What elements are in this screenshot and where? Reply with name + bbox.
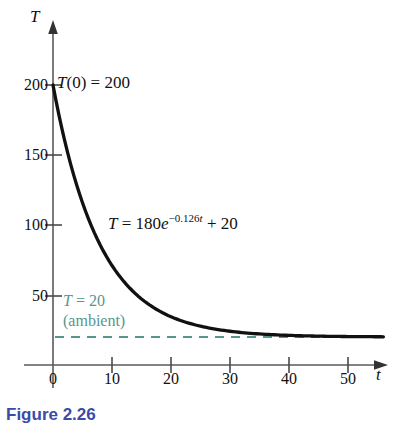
equation-exponent: −0.126t: [169, 212, 203, 224]
equation-tail: + 20: [203, 214, 238, 233]
ambient-value-label: T = 20: [63, 293, 105, 309]
x-tick-label-0: 0: [33, 371, 73, 387]
x-tick-label-30: 30: [210, 371, 250, 387]
equation-exponent-number: −0.126: [169, 212, 200, 224]
ambient-variable: T: [63, 292, 72, 309]
x-axis-label: t: [376, 366, 381, 383]
y-tick-label-50: 50: [2, 288, 48, 304]
y-axis-label: T: [30, 8, 39, 25]
equation-base: e: [161, 214, 169, 233]
x-tick-label-20: 20: [151, 371, 191, 387]
ambient-value: = 20: [72, 292, 105, 309]
equation-annotation: T = 180e−0.126t + 20: [108, 215, 238, 232]
initial-value-rest: (0) = 200: [66, 73, 129, 92]
equation-mid: = 180: [117, 214, 161, 233]
y-tick-label-150: 150: [2, 147, 48, 163]
x-tick-label-40: 40: [269, 371, 309, 387]
figure-caption: Figure 2.26: [6, 406, 96, 423]
x-tick-label-10: 10: [92, 371, 132, 387]
initial-value-annotation: T(0) = 200: [57, 74, 130, 91]
y-tick-label-200: 200: [2, 77, 48, 93]
x-axis: [24, 360, 388, 370]
y-tick-label-100: 100: [2, 217, 48, 233]
x-tick-label-50: 50: [328, 371, 368, 387]
ambient-descriptor-label: (ambient): [63, 313, 125, 329]
